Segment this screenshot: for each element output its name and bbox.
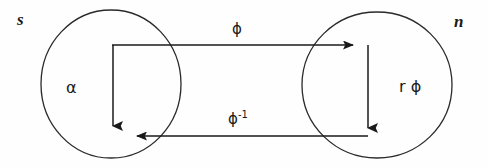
- element-label-r-phi: r ϕ: [399, 79, 421, 95]
- set-label-left-s: s: [17, 11, 24, 28]
- commutative-diagram-figure: s n α r ϕ ϕ ϕ-1: [0, 0, 489, 168]
- arrow-label-phi-inverse: ϕ-1: [228, 110, 248, 127]
- arrow-label-phi-inverse-base: ϕ: [228, 110, 238, 128]
- element-label-alpha: α: [66, 80, 77, 96]
- arrow-label-phi: ϕ: [232, 22, 242, 37]
- arrow-label-phi-inverse-exponent: -1: [238, 109, 248, 120]
- set-label-right-n: n: [454, 13, 463, 30]
